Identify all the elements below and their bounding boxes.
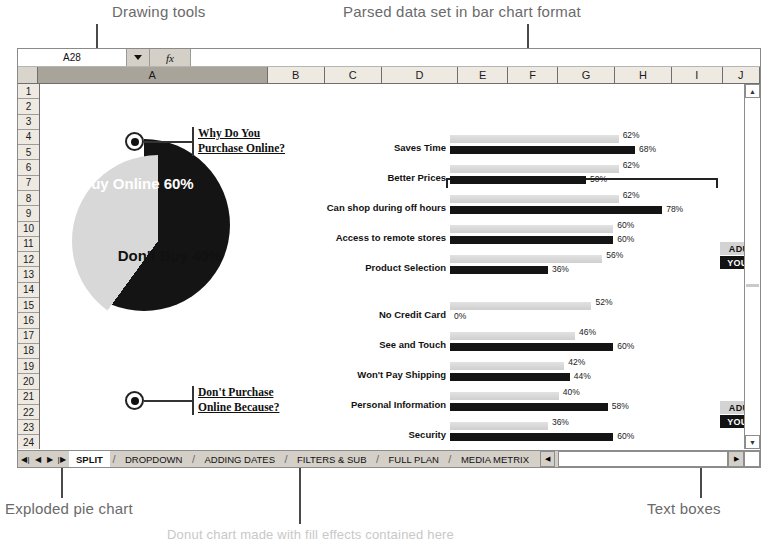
callout-stem	[144, 141, 192, 143]
callout-stem	[144, 400, 192, 402]
row-header-17[interactable]: 17	[18, 329, 39, 344]
column-header-d[interactable]: D	[382, 67, 459, 83]
bar-adult[interactable]	[450, 165, 619, 173]
row-header-10[interactable]: 10	[18, 222, 39, 237]
bar-young[interactable]	[450, 433, 613, 441]
bar-young[interactable]	[450, 236, 613, 244]
row-header-2[interactable]: 2	[18, 99, 39, 114]
bar-adult[interactable]	[450, 332, 575, 340]
column-header-c[interactable]: C	[325, 67, 382, 83]
fx-icon[interactable]: fx	[150, 49, 191, 66]
row-header-7[interactable]: 7	[18, 176, 39, 191]
column-header-e[interactable]: E	[458, 67, 508, 83]
callout-line-2: Purchase Online?	[198, 141, 285, 156]
sheet-nav-buttons[interactable]: ◀| ◀ ▶ |▶	[18, 451, 69, 467]
next-sheet-icon[interactable]: ▶	[44, 455, 55, 464]
bar-group: Product Selection56%36%	[298, 254, 728, 284]
hscroll-right-icon[interactable]: ▶	[728, 451, 744, 467]
column-header-h[interactable]: H	[615, 67, 672, 83]
column-header-g[interactable]: G	[558, 67, 615, 83]
row-header-12[interactable]: 12	[18, 252, 39, 267]
row-header-3[interactable]: 3	[18, 115, 39, 130]
row-header-4[interactable]: 4	[18, 130, 39, 145]
row-header-22[interactable]: 22	[18, 405, 39, 420]
bar-adult[interactable]	[450, 225, 613, 233]
bar-adult[interactable]	[450, 362, 564, 370]
column-header-j[interactable]: J	[723, 67, 760, 83]
bar-value-adult: 40%	[563, 387, 580, 397]
scrollbar-thumb[interactable]	[746, 284, 759, 287]
formula-bar: A28 fx	[18, 49, 760, 67]
vertical-scrollbar[interactable]: ▲ ▼	[744, 84, 760, 449]
prev-sheet-icon[interactable]: ◀	[32, 455, 43, 464]
row-header-18[interactable]: 18	[18, 344, 39, 359]
column-header-i[interactable]: I	[672, 67, 723, 83]
leader-line-exploded-pie	[61, 468, 63, 498]
sheet-tab-split[interactable]: SPLIT	[69, 451, 110, 467]
column-header-b[interactable]: B	[268, 67, 325, 83]
bar-value-young: 68%	[639, 144, 656, 154]
row-header-24[interactable]: 24	[18, 435, 39, 450]
exploded-pie-chart[interactable]: Buy Online 60% Don't Buy 40%	[58, 139, 248, 324]
row-header-13[interactable]: 13	[18, 267, 39, 282]
bar-young[interactable]	[450, 403, 608, 411]
row-header-15[interactable]: 15	[18, 298, 39, 313]
legend-adult[interactable]: ADULT	[720, 242, 744, 255]
pie-label-dont-buy-text: Don't Buy	[118, 247, 188, 264]
callout-line-2: Online Because?	[198, 400, 279, 415]
bar-young[interactable]	[450, 373, 570, 381]
last-sheet-icon[interactable]: |▶	[56, 455, 67, 464]
row-header-8[interactable]: 8	[18, 191, 39, 206]
sheet-tab-adding-dates[interactable]: ADDING DATES	[197, 451, 282, 467]
bar-young[interactable]	[450, 343, 613, 351]
name-box[interactable]: A28	[18, 49, 150, 66]
sheet-tab-media-metrix[interactable]: MEDIA METRIX	[454, 451, 536, 467]
sheet-tab-filters-sub[interactable]: FILTERS & SUB	[290, 451, 374, 467]
bar-young[interactable]	[450, 176, 586, 184]
annotation-parsed-data: Parsed data set in bar chart format	[343, 3, 581, 20]
bar-value-adult: 62%	[623, 190, 640, 200]
first-sheet-icon[interactable]: ◀|	[20, 455, 31, 464]
row-header-23[interactable]: 23	[18, 420, 39, 435]
row-header-16[interactable]: 16	[18, 313, 39, 328]
bar-adult[interactable]	[450, 255, 602, 263]
row-header-21[interactable]: 21	[18, 390, 39, 405]
radio-icon[interactable]	[125, 391, 144, 410]
sheet-tab-full-plan[interactable]: FULL PLAN	[382, 451, 446, 467]
legend-young[interactable]: YOUNG	[720, 256, 744, 269]
scroll-down-icon[interactable]: ▼	[745, 435, 760, 449]
tab-scroll-icon[interactable]: ◀	[540, 451, 555, 467]
bar-category-label: Won't Pay Shipping	[298, 369, 446, 380]
tab-separator: /	[374, 451, 382, 467]
column-header-f[interactable]: F	[508, 67, 558, 83]
callout-bar	[192, 127, 194, 156]
chevron-down-icon[interactable]	[126, 49, 149, 66]
select-all-corner[interactable]	[18, 67, 38, 83]
bar-adult[interactable]	[450, 195, 619, 203]
horizontal-scrollbar[interactable]	[558, 451, 728, 467]
row-header-19[interactable]: 19	[18, 359, 39, 374]
bar-young[interactable]	[450, 206, 662, 214]
worksheet-grid[interactable]: Buy Online 60% Don't Buy 40% Why Do You …	[40, 84, 744, 449]
row-header-20[interactable]: 20	[18, 374, 39, 389]
row-header-5[interactable]: 5	[18, 145, 39, 160]
legend-adult[interactable]: ADULT	[720, 401, 744, 414]
column-header-a[interactable]: A	[38, 67, 268, 83]
radio-icon[interactable]	[125, 132, 144, 151]
bar-adult[interactable]	[450, 392, 559, 400]
row-header-9[interactable]: 9	[18, 206, 39, 221]
legend-young[interactable]: YOUNG	[720, 415, 744, 428]
bar-chart[interactable]: Saves Time62%68%Better Prices62%50%Can s…	[298, 134, 728, 449]
formula-input[interactable]	[191, 49, 760, 66]
row-header-6[interactable]: 6	[18, 160, 39, 175]
bar-young[interactable]	[450, 146, 635, 154]
bar-adult[interactable]	[450, 422, 548, 430]
scroll-up-icon[interactable]: ▲	[745, 84, 760, 98]
row-header-1[interactable]: 1	[18, 84, 39, 99]
row-header-14[interactable]: 14	[18, 283, 39, 298]
bar-adult[interactable]	[450, 302, 591, 310]
bar-young[interactable]	[450, 266, 548, 274]
sheet-tab-dropdown[interactable]: DROPDOWN	[118, 451, 190, 467]
row-header-11[interactable]: 11	[18, 237, 39, 252]
bar-adult[interactable]	[450, 135, 619, 143]
